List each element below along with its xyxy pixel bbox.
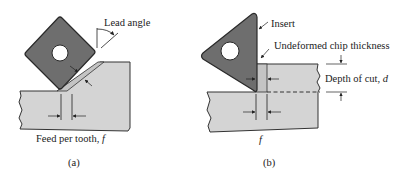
panel-b: Insert Undeformed chip thickness f Depth… — [202, 13, 390, 169]
figure-canvas: Lead angle Feed per tooth, f (a) Insert … — [0, 0, 411, 179]
chip-b — [256, 64, 267, 92]
milling-insert-diagram: Lead angle Feed per tooth, f (a) Insert … — [0, 0, 411, 179]
insert-hole-b — [221, 42, 239, 60]
caption-b: (b) — [263, 157, 276, 169]
depth-of-cut-label: Depth of cut, d — [325, 73, 389, 84]
undeformed-chip-thickness-label: Undeformed chip thickness — [274, 40, 389, 51]
feed-symbol-b: f — [259, 134, 264, 145]
insert-label: Insert — [271, 18, 295, 29]
lead-angle-label: Lead angle — [104, 17, 151, 28]
panel-a: Lead angle Feed per tooth, f (a) — [19, 17, 151, 169]
caption-a: (a) — [68, 157, 80, 169]
feed-per-tooth-label: Feed per tooth, f — [36, 133, 107, 144]
insert-hole-a — [52, 45, 68, 61]
lead-angle-arc — [97, 29, 114, 35]
